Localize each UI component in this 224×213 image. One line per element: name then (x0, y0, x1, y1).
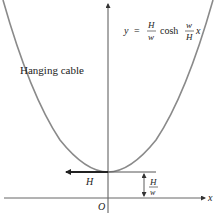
eq-var: x (195, 25, 201, 36)
dim-den: w (150, 188, 156, 197)
eq-frac1-den: w (148, 32, 154, 42)
eq-lhs: y (123, 25, 129, 36)
eq-frac2-den: H (185, 32, 193, 42)
dim-num: H (149, 177, 157, 187)
eq-frac1-num: H (147, 20, 155, 30)
eq-frac2-num: w (186, 20, 192, 30)
eq-equals: = (134, 25, 140, 36)
curve-label: Hanging cable (20, 64, 84, 76)
origin-label: O (98, 201, 105, 212)
dimension-label: H w (149, 177, 158, 197)
force-label: H (85, 176, 94, 187)
x-axis-label: x (207, 192, 213, 203)
hanging-cable-diagram: Hanging cable y = H w cosh w H x H O x H… (0, 0, 224, 213)
equation: y = H w cosh w H x (123, 20, 201, 42)
eq-func: cosh (160, 25, 178, 36)
